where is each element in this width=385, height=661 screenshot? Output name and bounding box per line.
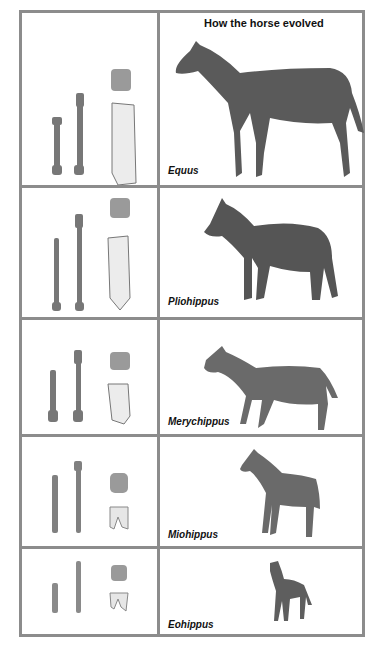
- row-eohippus: Eohippus: [22, 549, 362, 637]
- horse-equus-icon: [160, 13, 368, 185]
- leg-bones-and-teeth-icon: [22, 13, 157, 185]
- horse-panel-pliohippus: Pliohippus: [160, 188, 362, 317]
- horse-panel-merychippus: Merychippus: [160, 320, 362, 434]
- species-label-eohippus: Eohippus: [168, 619, 214, 630]
- row-pliohippus: Pliohippus: [22, 188, 362, 317]
- fossils-equus: [22, 13, 157, 185]
- leg-bones-and-teeth-icon: [22, 549, 157, 637]
- species-label-pliohippus: Pliohippus: [168, 296, 219, 307]
- fossils-eohippus: [22, 549, 157, 637]
- row-miohippus: Miohippus: [22, 437, 362, 546]
- row-equus: How the horse evolved Equus: [22, 13, 362, 185]
- horse-panel-equus: How the horse evolved Equus: [160, 13, 362, 185]
- leg-bones-and-teeth-icon: [22, 320, 157, 434]
- fossils-pliohippus: [22, 188, 157, 317]
- fossils-merychippus: [22, 320, 157, 434]
- species-label-merychippus: Merychippus: [168, 416, 230, 427]
- horse-panel-eohippus: Eohippus: [160, 549, 362, 637]
- row-merychippus: Merychippus: [22, 320, 362, 434]
- horse-panel-miohippus: Miohippus: [160, 437, 362, 546]
- species-label-equus: Equus: [168, 165, 199, 176]
- horse-evolution-chart: How the horse evolved Equus Pliohippu: [19, 10, 365, 637]
- leg-bones-and-teeth-icon: [22, 437, 157, 546]
- fossils-miohippus: [22, 437, 157, 546]
- leg-bones-and-teeth-icon: [22, 188, 157, 317]
- species-label-miohippus: Miohippus: [168, 529, 218, 540]
